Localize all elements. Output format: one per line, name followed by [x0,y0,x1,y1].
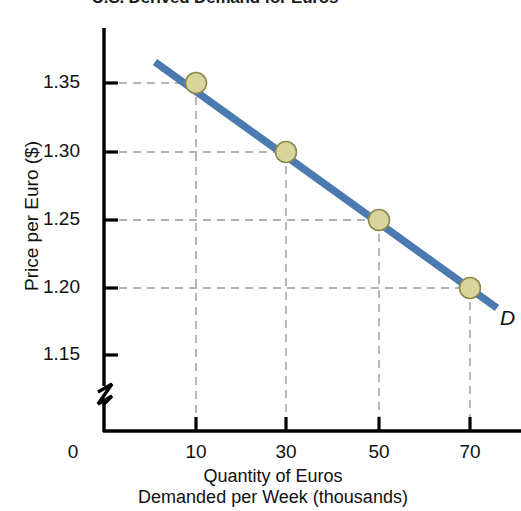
y-tick-label-3: 1.25 [8,208,80,230]
x-axis-label-line-1: Quantity of Euros [103,466,443,487]
x-tick-label-50: 50 [349,441,409,463]
y-axis-break-symbol [98,384,112,432]
y-tick-label-5: 1.15 [8,343,80,365]
horizontal-gridlines [105,83,470,288]
y-axis-ticks [104,83,118,355]
y-axis-label: Price per Euro ($) [21,106,43,326]
y-tick-label-4: 1.20 [8,276,80,298]
x-tick-label-0: 0 [43,441,103,463]
data-point-marker [369,210,390,231]
x-tick-label-10: 10 [166,441,226,463]
x-axis-label-line-2: Demanded per Week (thousands) [103,487,443,508]
x-axis-label: Quantity of Euros Demanded per Week (tho… [103,466,443,508]
x-tick-label-30: 30 [256,441,316,463]
demand-curve-line [155,62,497,308]
y-tick-label-1: 1.35 [8,71,80,93]
data-point-marker [460,278,481,299]
demand-curve-label: D [500,306,515,330]
x-tick-label-70: 70 [440,441,500,463]
data-point-marker [186,73,207,94]
y-tick-label-2: 1.30 [8,140,80,162]
x-axis-ticks [196,417,470,431]
chart-figure: U.S. Derived Demand for Euros [0,0,521,511]
data-point-marker [276,142,297,163]
